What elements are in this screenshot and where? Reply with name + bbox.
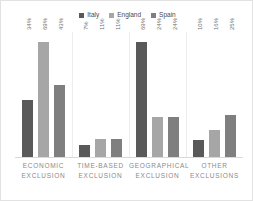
bar-spain[interactable]: 25% [225, 32, 236, 157]
category-label: TIME-BASEDEXCLUSION [72, 161, 129, 181]
category-label-line1: TIME-BASED [72, 161, 129, 171]
bar-england[interactable]: 24% [152, 32, 163, 157]
bar-italy[interactable]: 69% [136, 32, 147, 157]
bar-value-label: 11% [99, 18, 105, 30]
bar-value-label: 11% [115, 18, 121, 30]
bar-value-label: 24% [172, 18, 178, 30]
bar-rect[interactable] [152, 117, 163, 157]
bar-spain[interactable]: 24% [168, 32, 179, 157]
bar-group: 34%69%43% [15, 32, 72, 157]
legend-swatch-icon [79, 13, 84, 18]
category-label-line1: ECONOMIC [15, 161, 72, 171]
category-label-line1: GEOGRAPHICAL [129, 161, 186, 171]
category-label: ECONOMICEXCLUSION [15, 161, 72, 181]
bar-spain[interactable]: 43% [54, 32, 65, 157]
bar-england[interactable]: 16% [209, 32, 220, 157]
bar-italy[interactable]: 10% [193, 32, 204, 157]
bar-rect[interactable] [95, 139, 106, 157]
bar-value-label: 43% [58, 18, 64, 30]
legend-label: Italy [87, 12, 99, 19]
legend-entry-england[interactable]: England [109, 12, 141, 19]
category-label-line2: EXCLUSION [72, 171, 129, 181]
bar-group-bars: 10%16%25% [186, 32, 243, 157]
category-label-line2: EXCLUSION [129, 171, 186, 181]
category-label-line2: EXCLUSION [15, 171, 72, 181]
bar-value-label: 25% [229, 18, 235, 30]
category-label: OTHEREXCLUSIONS [186, 161, 243, 181]
legend-entry-italy[interactable]: Italy [79, 12, 99, 19]
bar-value-label: 7% [83, 21, 89, 30]
bar-value-label: 24% [156, 18, 162, 30]
bar-rect[interactable] [136, 42, 147, 157]
bar-england[interactable]: 11% [95, 32, 106, 157]
bar-group-bars: 34%69%43% [15, 32, 72, 157]
legend-swatch-icon [109, 13, 114, 18]
bar-value-label: 16% [213, 18, 219, 30]
bar-spain[interactable]: 11% [111, 32, 122, 157]
bar-value-label: 69% [140, 18, 146, 30]
bar-italy[interactable]: 7% [79, 32, 90, 157]
bar-rect[interactable] [111, 139, 122, 157]
bar-rect[interactable] [54, 85, 65, 157]
bar-rect[interactable] [38, 42, 49, 157]
bar-england[interactable]: 69% [38, 32, 49, 157]
category-label-line1: OTHER [186, 161, 243, 171]
x-axis-line [15, 157, 243, 158]
bar-rect[interactable] [225, 115, 236, 157]
plot-area: 34%69%43%7%11%11%69%24%24%10%16%25% [15, 32, 243, 157]
bar-rect[interactable] [209, 130, 220, 157]
bar-italy[interactable]: 34% [22, 32, 33, 157]
bar-group: 69%24%24% [129, 32, 186, 157]
category-label: GEOGRAPHICALEXCLUSION [129, 161, 186, 181]
bar-group-bars: 69%24%24% [129, 32, 186, 157]
bar-group: 10%16%25% [186, 32, 243, 157]
category-axis-labels: ECONOMICEXCLUSIONTIME-BASEDEXCLUSIONGEOG… [15, 161, 243, 195]
bar-rect[interactable] [79, 145, 90, 157]
bar-rect[interactable] [168, 117, 179, 157]
bar-chart: ItalyEnglandSpain 34%69%43%7%11%11%69%24… [0, 0, 253, 201]
bar-value-label: 69% [42, 18, 48, 30]
category-label-line2: EXCLUSIONS [186, 171, 243, 181]
bar-value-label: 10% [197, 18, 203, 30]
bar-rect[interactable] [22, 100, 33, 157]
bar-rect[interactable] [193, 140, 204, 157]
bar-group-bars: 7%11%11% [72, 32, 129, 157]
bar-value-label: 34% [26, 18, 32, 30]
bar-group: 7%11%11% [72, 32, 129, 157]
